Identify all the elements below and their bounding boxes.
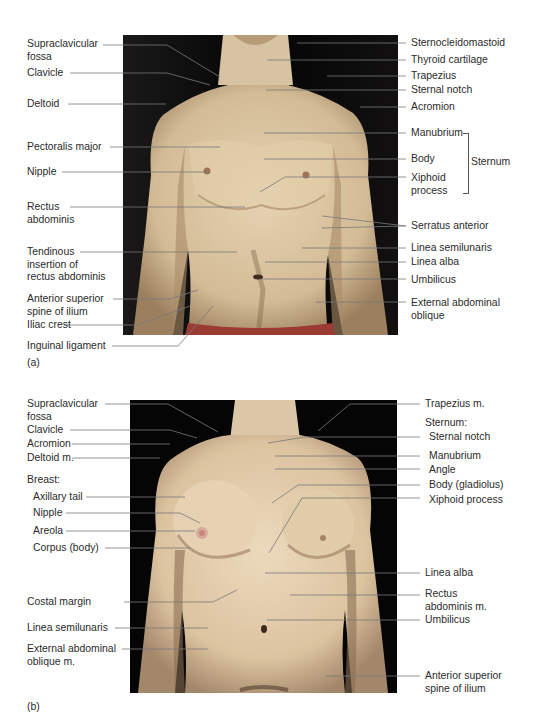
label-costal-margin: Costal margin	[27, 596, 91, 609]
label-sternum-group: Sternum	[471, 156, 510, 169]
sternum-bracket	[463, 133, 469, 194]
label-linea-alba-b: Linea alba	[425, 567, 473, 580]
label-sternal-notch-a: Sternal notch	[411, 84, 472, 97]
label-supraclavicular-fossa-a: Supraclavicular fossa	[27, 38, 98, 63]
label-deltoid-b: Deltoid m.	[27, 452, 74, 465]
label-rectus-abdominis-b: Rectus abdominis m.	[425, 588, 487, 613]
label-nipple-b: Nipple	[33, 507, 62, 520]
label-rectus-abdominis-a: Rectus abdominis	[27, 201, 74, 226]
label-inguinal-ligament: Inguinal ligament	[27, 340, 106, 353]
label-acromion-b: Acromion	[27, 438, 71, 451]
label-manubrium-b: Manubrium	[429, 450, 481, 463]
label-iliac-crest: Iliac crest	[27, 319, 71, 332]
label-sternocleidomastoid: Sternocleidomastoid	[411, 37, 505, 50]
label-xiphoid-process-a: Xiphoid process	[411, 172, 447, 197]
label-nipple-a: Nipple	[27, 166, 56, 179]
label-linea-alba-a: Linea alba	[411, 256, 459, 269]
label-umbilicus-a: Umbilicus	[411, 274, 456, 287]
photo-male-torso	[123, 35, 398, 335]
label-supraclavicular-fossa-b: Supraclavicular fossa	[27, 398, 98, 423]
label-clavicle-b: Clavicle	[27, 424, 63, 437]
label-umbilicus-b: Umbilicus	[425, 614, 470, 627]
photo-female-torso	[130, 400, 397, 693]
label-body-a: Body	[411, 153, 435, 166]
label-sternum-heading-b: Sternum:	[425, 417, 467, 430]
label-deltoid-a: Deltoid	[27, 98, 59, 111]
label-corpus: Corpus (body)	[33, 542, 99, 555]
label-asis-b: Anterior superior spine of ilium	[425, 670, 502, 695]
label-angle: Angle	[429, 464, 456, 477]
label-linea-semilunaris-b: Linea semilunaris	[27, 622, 108, 635]
label-manubrium-a: Manubrium	[411, 127, 463, 140]
label-xiphoid-process-b: Xiphoid process	[429, 494, 503, 507]
label-body-gladiolus: Body (gladiolus)	[429, 479, 504, 492]
label-external-oblique-b: External abdominal oblique m.	[27, 643, 116, 668]
label-asis-a: Anterior superior spine of ilium	[27, 293, 104, 318]
label-pectoralis-major: Pectoralis major	[27, 141, 102, 154]
label-trapezius-a: Trapezius	[411, 70, 456, 83]
male-torso-illustration	[123, 35, 398, 335]
label-linea-semilunaris-a: Linea semilunaris	[411, 242, 492, 255]
label-axillary-tail: Axillary tail	[33, 491, 83, 504]
label-serratus-anterior: Serratus anterior	[411, 220, 488, 233]
label-sternal-notch-b: Sternal notch	[429, 431, 490, 444]
label-breast-group: Breast:	[27, 474, 60, 487]
label-areola: Areola	[33, 525, 63, 538]
label-thyroid-cartilage: Thyroid cartilage	[411, 54, 488, 67]
label-clavicle-a: Clavicle	[27, 67, 63, 80]
label-acromion-a: Acromion	[411, 101, 455, 114]
panel-tag-a: (a)	[27, 356, 40, 368]
label-tendinous-insertion: Tendinous insertion of rectus abdominis	[27, 246, 106, 284]
female-torso-illustration	[130, 400, 397, 693]
label-trapezius-b: Trapezius m.	[425, 398, 485, 411]
panel-tag-b: (b)	[27, 700, 40, 712]
label-external-oblique-a: External abdominal oblique	[411, 297, 500, 322]
